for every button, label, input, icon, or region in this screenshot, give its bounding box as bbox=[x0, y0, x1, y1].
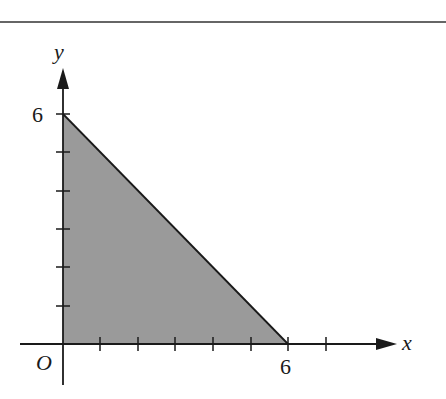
figure-canvas: y x O 6 6 bbox=[0, 0, 446, 399]
y-tick-label-6: 6 bbox=[32, 102, 43, 127]
x-tick-label-6: 6 bbox=[280, 354, 291, 379]
x-axis-arrow-icon bbox=[376, 338, 397, 350]
y-axis-arrow-icon bbox=[57, 68, 69, 89]
y-axis-label: y bbox=[52, 39, 64, 64]
x-axis-label: x bbox=[401, 330, 412, 355]
origin-label: O bbox=[36, 350, 52, 375]
